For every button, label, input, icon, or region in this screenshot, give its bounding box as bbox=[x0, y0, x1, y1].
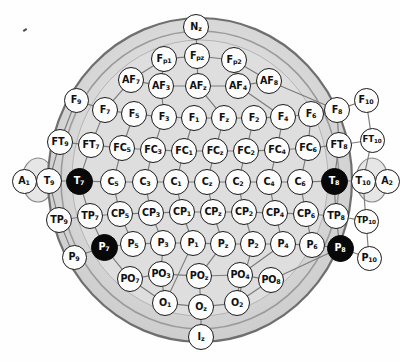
electrode-afz[interactable]: AFz bbox=[185, 73, 211, 99]
electrode-f9[interactable]: F9 bbox=[64, 88, 89, 113]
electrode-label: AF3 bbox=[152, 81, 170, 91]
electrode-label: T9 bbox=[44, 176, 55, 186]
electrode-ft8[interactable]: FT8 bbox=[326, 132, 352, 158]
electrode-a1[interactable]: A1 bbox=[12, 169, 37, 194]
electrode-p4[interactable]: P4 bbox=[270, 231, 296, 257]
electrode-fp1[interactable]: Fp1 bbox=[151, 46, 177, 72]
electrode-po3[interactable]: PO3 bbox=[148, 261, 174, 287]
electrode-c3[interactable]: C3 bbox=[132, 169, 158, 195]
electrode-label: FCz bbox=[207, 146, 224, 156]
electrode-label: C2 bbox=[232, 177, 243, 187]
electrode-label: O1 bbox=[159, 298, 171, 308]
electrode-t8[interactable]: T8 bbox=[321, 168, 348, 195]
electrode-fc4[interactable]: FC4 bbox=[264, 137, 290, 163]
electrode-label: PO3 bbox=[152, 269, 171, 279]
electrode-o2[interactable]: O2 bbox=[224, 290, 250, 316]
electrode-po8[interactable]: PO8 bbox=[258, 267, 284, 293]
electrode-af4[interactable]: AF4 bbox=[225, 73, 251, 99]
electrode-af7[interactable]: AF7 bbox=[118, 67, 144, 93]
electrode-label: AF8 bbox=[260, 76, 278, 86]
electrode-label: PO8 bbox=[262, 275, 281, 285]
electrode-iz[interactable]: Iz bbox=[188, 324, 214, 350]
electrode-f3[interactable]: F3 bbox=[151, 104, 177, 130]
electrode-f10[interactable]: F10 bbox=[354, 88, 379, 113]
electrode-t9[interactable]: T9 bbox=[36, 168, 62, 194]
electrode-link bbox=[367, 232, 368, 246]
electrode-cp4[interactable]: CP4 bbox=[262, 200, 288, 226]
electrode-label: Pz bbox=[218, 239, 228, 249]
electrode-p10[interactable]: P10 bbox=[357, 246, 382, 271]
electrode-po7[interactable]: PO7 bbox=[117, 266, 143, 292]
electrode-af8[interactable]: AF8 bbox=[256, 68, 282, 94]
electrode-label: Oz bbox=[195, 302, 206, 312]
electrode-ft9[interactable]: FT9 bbox=[47, 129, 73, 155]
electrode-label: TP10 bbox=[356, 216, 375, 226]
electrode-po4[interactable]: PO4 bbox=[227, 262, 253, 288]
electrode-tp7[interactable]: TP7 bbox=[77, 203, 103, 229]
electrode-fz[interactable]: Fz bbox=[211, 105, 237, 131]
electrode-o1[interactable]: O1 bbox=[152, 290, 178, 316]
electrode-f5[interactable]: F5 bbox=[121, 101, 147, 127]
electrode-af3[interactable]: AF3 bbox=[148, 73, 174, 99]
electrode-c4[interactable]: C4 bbox=[256, 169, 282, 195]
electrode-tp8[interactable]: TP8 bbox=[323, 203, 349, 229]
electrode-pz[interactable]: Pz bbox=[210, 231, 236, 257]
electrode-cp6[interactable]: CP6 bbox=[293, 201, 319, 227]
electrode-ft10[interactable]: FT10 bbox=[360, 128, 385, 153]
electrode-label: TP7 bbox=[81, 211, 98, 221]
electrode-cp2[interactable]: CP2 bbox=[231, 199, 257, 225]
electrode-f2[interactable]: F2 bbox=[241, 105, 267, 131]
electrode-poz[interactable]: POz bbox=[186, 263, 212, 289]
electrode-c2[interactable]: C2 bbox=[225, 169, 251, 195]
electrode-t7[interactable]: T7 bbox=[66, 168, 93, 195]
electrode-p1[interactable]: P1 bbox=[180, 230, 206, 256]
electrode-f4[interactable]: F4 bbox=[270, 104, 296, 130]
electrode-label: P9 bbox=[68, 252, 79, 262]
electrode-p3[interactable]: P3 bbox=[150, 230, 176, 256]
electrode-label: C6 bbox=[294, 177, 305, 187]
electrode-f8[interactable]: F8 bbox=[324, 97, 350, 123]
electrode-f7[interactable]: F7 bbox=[92, 97, 118, 123]
electrode-cz[interactable]: Cz bbox=[194, 169, 220, 195]
electrode-fc5[interactable]: FC5 bbox=[109, 135, 135, 161]
electrode-label: F5 bbox=[129, 109, 140, 119]
electrode-f6[interactable]: F6 bbox=[298, 101, 324, 127]
electrode-c1[interactable]: C1 bbox=[163, 169, 189, 195]
electrode-label: Cz bbox=[202, 177, 212, 187]
electrode-label: FC1 bbox=[175, 146, 192, 156]
electrode-label: A2 bbox=[381, 176, 392, 186]
electrode-fcz[interactable]: FCz bbox=[202, 138, 228, 164]
electrode-fc3[interactable]: FC3 bbox=[140, 137, 166, 163]
electrode-label: F4 bbox=[278, 112, 289, 122]
electrode-fpz[interactable]: Fpz bbox=[184, 43, 210, 69]
electrode-p6[interactable]: P6 bbox=[299, 232, 325, 258]
electrode-nz[interactable]: Nz bbox=[183, 14, 209, 40]
electrode-a2[interactable]: A2 bbox=[375, 169, 400, 194]
electrode-label: FC4 bbox=[268, 145, 285, 155]
electrode-cpz[interactable]: CPz bbox=[200, 199, 226, 225]
electrode-cp3[interactable]: CP3 bbox=[138, 200, 164, 226]
electrode-p7[interactable]: P7 bbox=[91, 234, 118, 261]
electrode-p8[interactable]: P8 bbox=[327, 235, 354, 262]
electrode-label: AF4 bbox=[229, 81, 247, 91]
electrode-t10[interactable]: T10 bbox=[351, 169, 376, 194]
electrode-fc1[interactable]: FC1 bbox=[171, 138, 197, 164]
electrode-p5[interactable]: P5 bbox=[120, 231, 146, 257]
electrode-cp1[interactable]: CP1 bbox=[169, 199, 195, 225]
electrode-fc6[interactable]: FC6 bbox=[295, 135, 321, 161]
electrode-oz[interactable]: Oz bbox=[188, 294, 214, 320]
electrode-c6[interactable]: C6 bbox=[287, 169, 313, 195]
electrode-p9[interactable]: P9 bbox=[62, 245, 87, 270]
electrode-tp10[interactable]: TP10 bbox=[354, 209, 379, 234]
electrode-f1[interactable]: F1 bbox=[181, 105, 207, 131]
electrode-fc2[interactable]: FC2 bbox=[233, 138, 259, 164]
electrode-tp9[interactable]: TP9 bbox=[46, 207, 72, 233]
electrode-fp2[interactable]: Fp2 bbox=[221, 47, 247, 73]
electrode-ft7[interactable]: FT7 bbox=[78, 132, 104, 158]
electrode-cp5[interactable]: CP5 bbox=[107, 201, 133, 227]
electrode-label: CP5 bbox=[111, 209, 129, 219]
electrode-c5[interactable]: C5 bbox=[100, 169, 126, 195]
electrode-label: FC3 bbox=[144, 145, 161, 155]
electrode-p2[interactable]: P2 bbox=[240, 231, 266, 257]
electrode-label: CP6 bbox=[297, 209, 315, 219]
